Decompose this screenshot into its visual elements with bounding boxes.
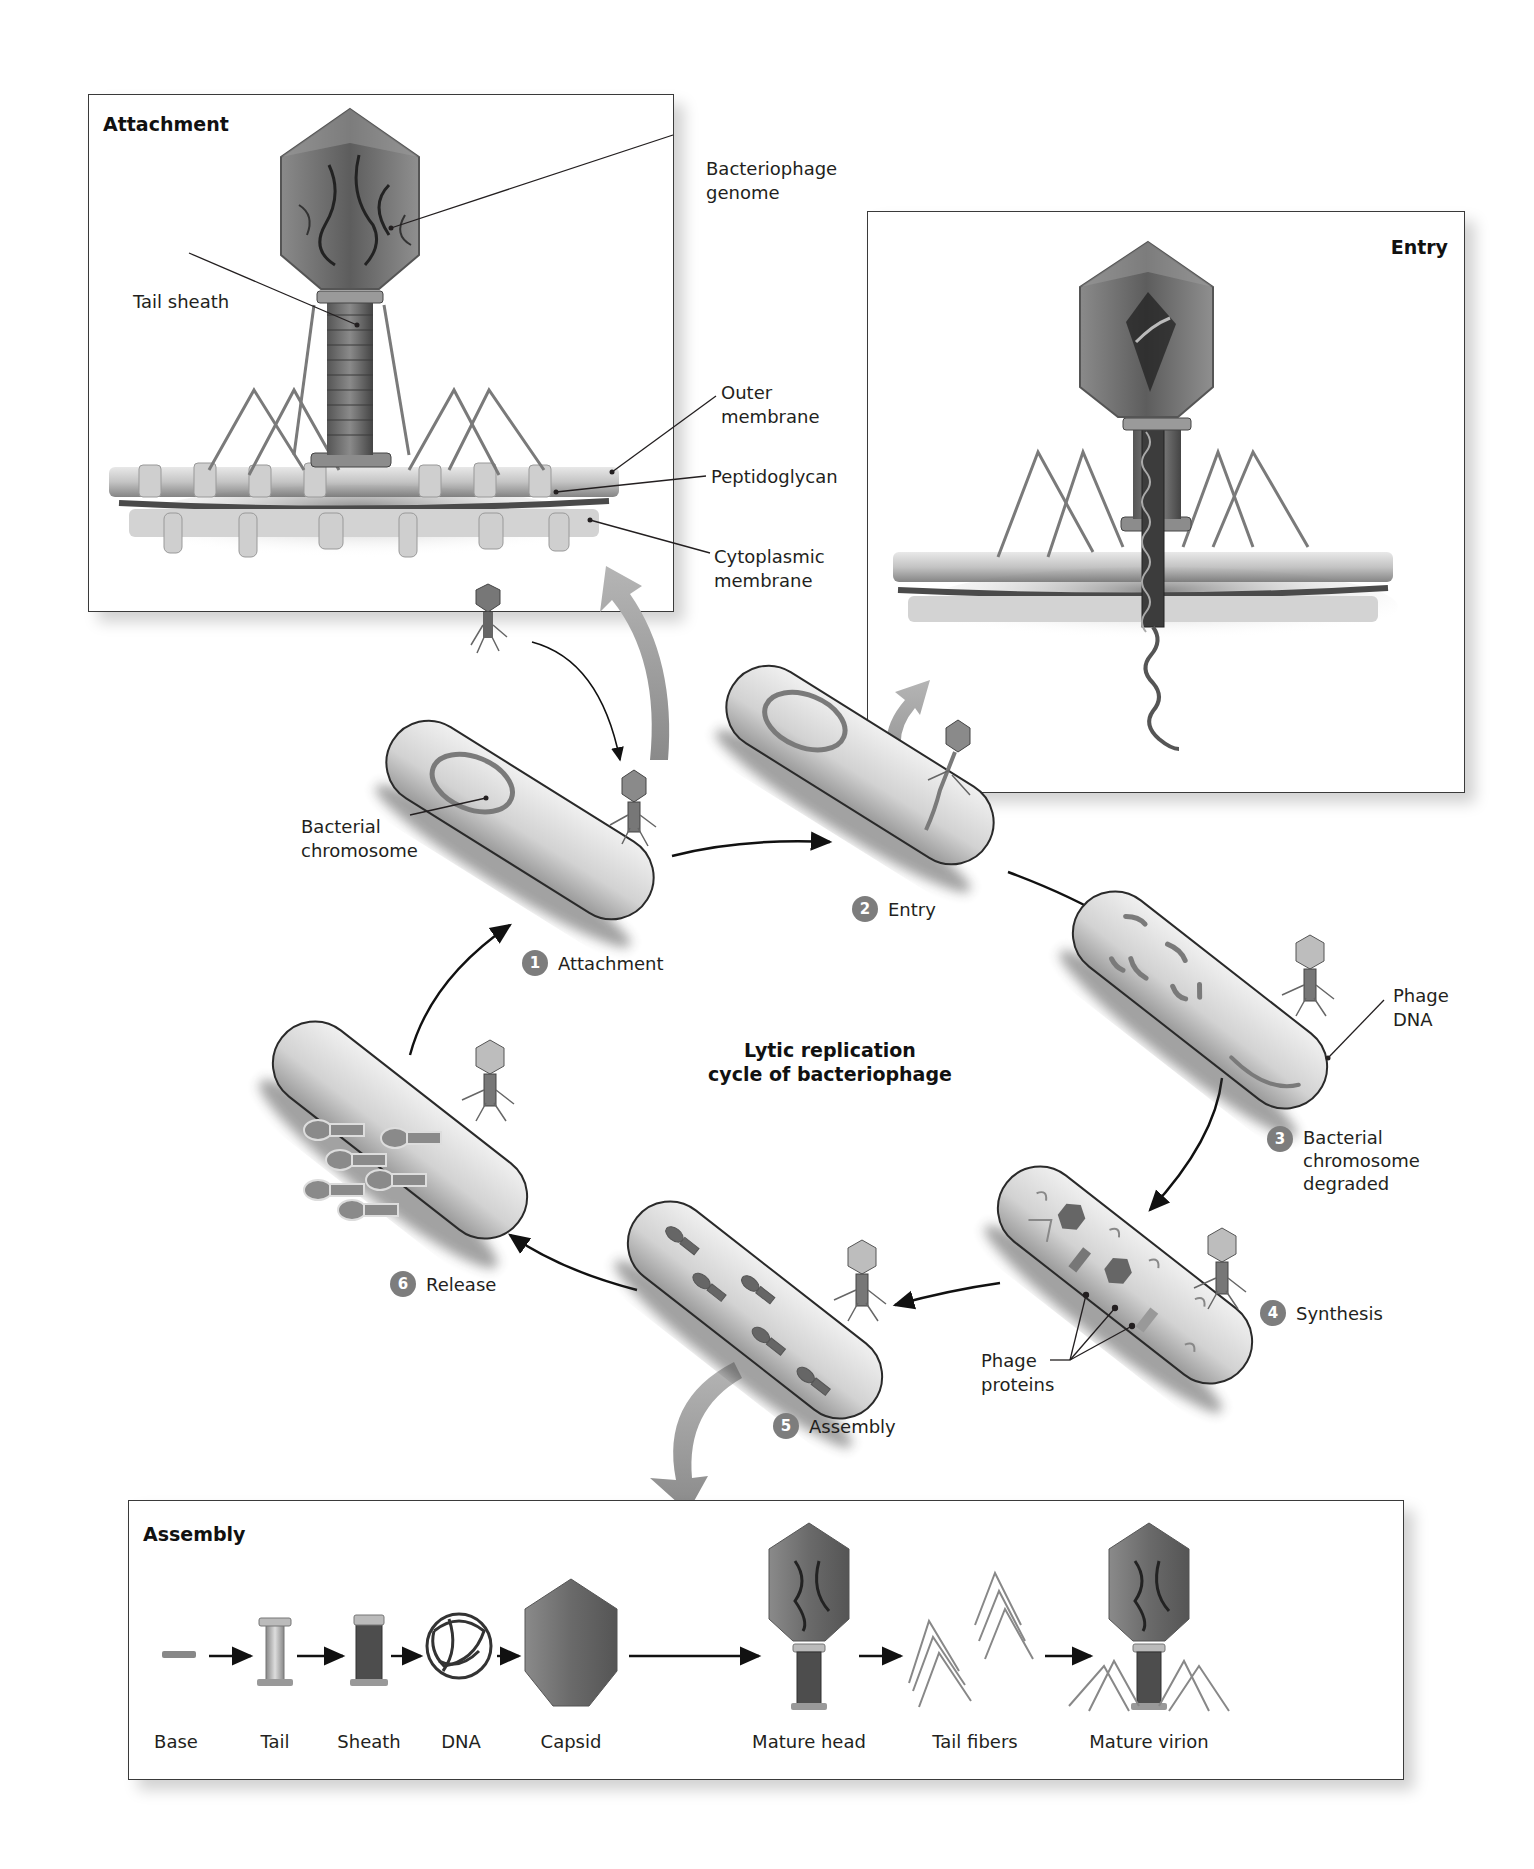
phage-on-bacterium-6 [462,1040,514,1121]
base-icon [162,1651,196,1658]
step-label: Assembly [809,1415,896,1438]
bacterium-entry [697,650,1018,908]
assembly-label-capsid: Capsid [501,1731,641,1752]
cycle-title: Lytic replication cycle of bacteriophage [705,1038,955,1086]
step-4-synthesis: 4 Synthesis [1260,1300,1383,1326]
mature-head-icon [769,1523,849,1710]
mature-virion-icon [1069,1523,1229,1711]
step-3-degraded: 3 Bacterial chromosome degraded [1267,1126,1420,1195]
assembly-label-mature-virion: Mature virion [1079,1731,1219,1752]
step-badge: 2 [852,896,878,922]
bacterial-chromosome-callout: Bacterial chromosome [301,815,418,863]
dna-icon [427,1614,491,1678]
step-label: Synthesis [1296,1302,1383,1325]
step-label: Entry [888,898,936,921]
step-label: Release [426,1273,496,1296]
assembly-panel: Assembly [128,1500,1404,1780]
assembly-label-mature-head: Mature head [739,1731,879,1752]
step-badge: 4 [1260,1300,1286,1326]
step-6-release: 6 Release [390,1271,496,1297]
phage-proteins-callout: Phage proteins [981,1349,1054,1397]
assembly-label-tail-fibers: Tail fibers [905,1731,1045,1752]
phage-dna-callout: Phage DNA [1393,984,1449,1032]
phage-on-bacterium-5 [834,1240,886,1321]
step-5-assembly: 5 Assembly [773,1413,896,1439]
step-badge: 1 [522,950,548,976]
capsid-icon [525,1579,617,1706]
step-badge: 6 [390,1271,416,1297]
tail-icon [257,1618,293,1686]
step-1-attachment: 1 Attachment [522,950,664,976]
step-2-entry: 2 Entry [852,896,936,922]
step-label: Bacterial chromosome degraded [1303,1126,1420,1195]
step-badge: 3 [1267,1126,1293,1152]
tail-fibers-icon [909,1573,1033,1707]
sheath-icon [350,1615,388,1686]
step-label: Attachment [558,952,664,975]
bacterium-degraded [1040,875,1352,1153]
phage-on-bacterium-3 [1282,935,1334,1016]
step-badge: 5 [773,1413,799,1439]
